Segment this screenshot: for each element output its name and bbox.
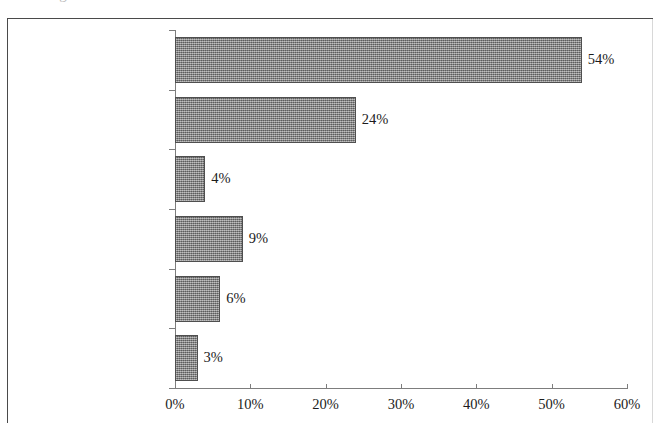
- value-axis-tick: [401, 384, 402, 389]
- value-axis-tick-label: 30%: [388, 396, 415, 413]
- bar: [175, 97, 356, 143]
- bar: [175, 335, 198, 381]
- bar: [175, 156, 205, 202]
- value-axis-tick-label: 50%: [538, 396, 565, 413]
- cut-off-title-fragment: Umfrage: Dauer der Aufenthalte: [0, 0, 654, 4]
- category-axis-tick: [169, 149, 175, 150]
- bar-value-label: 3%: [204, 349, 223, 366]
- bar: [175, 216, 243, 262]
- bar-value-label: 24%: [362, 111, 389, 128]
- category-axis-tick: [169, 328, 175, 329]
- category-axis-tick: [169, 209, 175, 210]
- category-axis-tick: [169, 90, 175, 91]
- value-axis-tick: [627, 384, 628, 389]
- bar-value-label: 54%: [588, 51, 615, 68]
- value-axis-tick-label: 20%: [312, 396, 339, 413]
- chart-screenshot: Umfrage: Dauer der Aufenthalte 54%Freita…: [0, 0, 654, 424]
- value-axis-tick: [476, 384, 477, 389]
- bar: [175, 37, 582, 83]
- bar-value-label: 6%: [226, 290, 245, 307]
- value-axis-tick-label: 60%: [614, 396, 641, 413]
- category-axis-tick: [169, 269, 175, 270]
- value-axis-tick: [552, 384, 553, 389]
- value-axis-tick-label: 40%: [463, 396, 490, 413]
- bar-value-label: 4%: [211, 170, 230, 187]
- bar-value-label: 9%: [249, 230, 268, 247]
- value-axis-tick-label: 0%: [165, 396, 184, 413]
- value-axis-tick: [326, 384, 327, 389]
- category-axis-tick: [169, 30, 175, 31]
- value-axis-tick: [175, 384, 176, 389]
- plot-area: 54%Freitagabend - Sonntag24%Freitagabend…: [175, 30, 627, 388]
- value-axis-tick-label: 10%: [237, 396, 264, 413]
- bar: [175, 276, 220, 322]
- value-axis-tick: [250, 384, 251, 389]
